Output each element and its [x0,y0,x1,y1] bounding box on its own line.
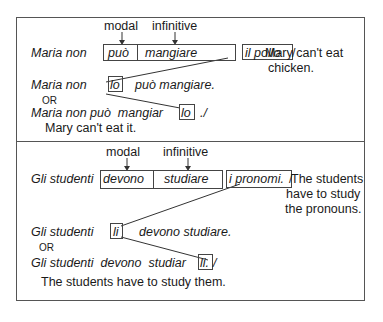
direct-object: i pronomi. [229,172,284,186]
or-label: OR [39,241,54,255]
modal-label: modal [106,145,140,159]
modal-verb: può [108,46,129,60]
clitic-pronoun: lo [110,78,120,92]
modal-box-separator [153,170,154,189]
translation-1a: Mary can't eat [265,46,343,60]
sentence-subject: Gli studenti [31,172,94,186]
sentence-prefix: Maria non può mangiar [31,106,163,120]
clitic-pronoun: li. [200,256,209,270]
section-divider [16,141,365,142]
translation-1b: chicken. [268,61,314,75]
sentence-subject: Maria non [31,78,87,92]
sentence-rest: devono studiare. [139,225,231,239]
modal-verb: devono [103,172,144,186]
sentence-rest: può mangiare. [135,78,215,92]
translation-1c: the pronouns. [285,202,361,216]
sentence-prefix: Gli studenti devono studiar [31,256,186,270]
sentence-subject: Gli studenti [31,225,94,239]
translation-2: The students have to study them. [41,275,226,289]
clitic-pronoun: li [113,225,119,239]
translation-1b: have to study [286,187,360,201]
infinitive-label: infinitive [163,145,208,159]
infinitive-verb: mangiare [145,46,197,60]
infinitive-verb: studiare [164,172,208,186]
translation-2: Mary can't eat it. [45,121,136,135]
clitic-pronoun: lo [181,106,191,120]
end-punct: ./ [200,106,207,120]
sentence-subject: Maria non [31,46,87,60]
end-punct: / [213,256,216,270]
translation-1a: The students [291,172,363,186]
infinitive-label: infinitive [152,19,197,33]
modal-label: modal [104,19,138,33]
